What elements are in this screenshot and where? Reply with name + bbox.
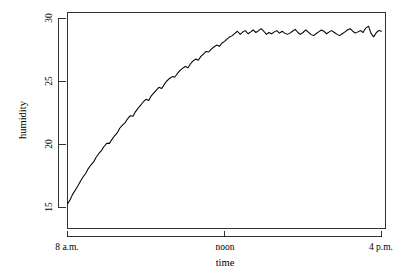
humidity-line-chart: 30 25 20 15 humidity 8 a.m. noon 4 p.m. … xyxy=(0,0,403,272)
y-tick-label-15: 15 xyxy=(44,202,54,212)
y-tick-label-20: 20 xyxy=(44,139,54,149)
x-tick-label-4pm: 4 p.m. xyxy=(369,242,393,252)
plot-panel-border xyxy=(68,13,386,229)
y-tick-label-25: 25 xyxy=(44,76,54,86)
chart-figure: 30 25 20 15 humidity 8 a.m. noon 4 p.m. … xyxy=(0,0,403,272)
y-axis-title: humidity xyxy=(17,100,28,139)
humidity-series-line xyxy=(68,26,382,204)
series-group xyxy=(68,26,382,204)
x-tick-label-noon: noon xyxy=(216,242,235,252)
x-axis-title: time xyxy=(216,257,235,268)
x-axis: 8 a.m. noon 4 p.m. time xyxy=(55,231,393,268)
y-axis: 30 25 20 15 humidity xyxy=(17,13,66,212)
x-tick-label-8am: 8 a.m. xyxy=(55,242,78,252)
y-tick-label-30: 30 xyxy=(44,13,54,23)
